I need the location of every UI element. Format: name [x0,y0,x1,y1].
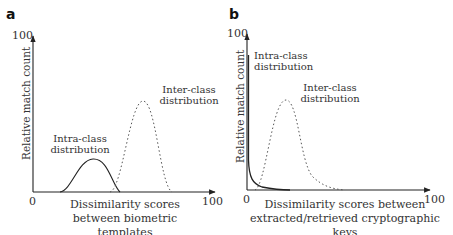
panel-a-x-min-tick: 0 [29,195,36,208]
panel-a-y-max-tick: 100 [12,29,33,42]
panel-a-inter-class-curve [110,101,172,192]
panel-b-x-axis-label: Dissimilarity scores between extracted/r… [245,198,445,235]
panel-b-inter-label-line1: Inter-class [298,82,362,93]
panel-a-intra-class-label: Intra-class distribution [48,133,112,155]
panel-a-intra-label-line1: Intra-class [48,133,112,144]
panel-b-inter-class-curve [255,100,345,190]
panel-a-x-max-tick: 100 [202,195,223,208]
panel-a-x-axis-label-line2: between biometric templates [55,212,195,235]
panel-b-inter-label-line2: distribution [298,93,362,104]
panel-a-inter-class-label: Inter-class distribution [157,84,221,106]
panel-b-intra-class-label: Intra-class distribution [254,50,318,72]
panel-a-intra-label-line2: distribution [48,144,112,155]
panel-b-intra-label-line2: distribution [254,61,318,72]
panel-b-intra-label-line1: Intra-class [254,50,318,61]
panel-a-x-axis-label: Dissimilarity scores between biometric t… [55,198,195,235]
panel-b-x-axis-label-line1: Dissimilarity scores between [245,198,445,212]
panel-a-x-axis-label-line1: Dissimilarity scores [55,198,195,212]
panel-a-y-axis-label: Relative match count [20,47,32,160]
panel-b-intra-class-curve [249,55,291,190]
panel-b-y-axis-label: Relative match count [234,50,246,163]
panel-a-inter-label-line2: distribution [157,95,221,106]
panel-b-y-max-tick: 100 [227,27,248,40]
panel-a-axes [33,36,215,192]
panel-b-x-axis-label-line2: extracted/retrieved cryptographic keys [245,212,445,235]
panel-a-inter-label-line1: Inter-class [157,84,221,95]
panel-a-intra-class-curve [60,159,120,192]
panel-b-inter-class-label: Inter-class distribution [298,82,362,104]
